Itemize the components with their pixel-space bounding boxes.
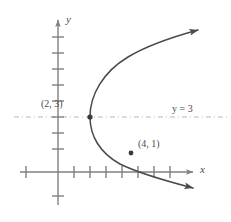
y-axis: [52, 20, 64, 205]
reference-line-label: y = 3: [172, 104, 193, 114]
graph-canvas: [0, 0, 231, 222]
x-axis-label: x: [200, 164, 205, 175]
marked-point-4-1: [129, 151, 134, 156]
point-label-2-3: (2, 3): [41, 99, 63, 109]
x-axis: [20, 166, 193, 178]
math-graph-figure: y x (2, 3) (4, 1) y = 3: [0, 0, 231, 222]
y-axis-label: y: [66, 14, 71, 25]
marked-point-2-3: [87, 114, 92, 119]
point-label-4-1: (4, 1): [138, 139, 160, 149]
